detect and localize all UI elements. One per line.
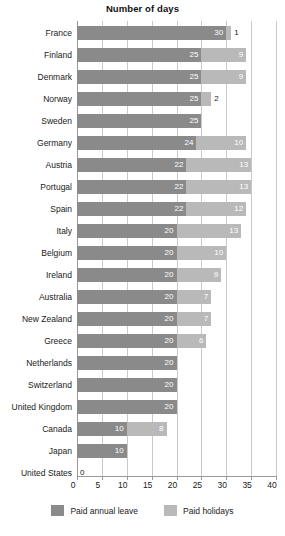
bar-segment-annual-leave[interactable]: 20	[77, 268, 177, 282]
bar-value-annual-leave: 25	[189, 51, 198, 59]
bar-row[interactable]: Japan10	[77, 444, 276, 458]
bar-segment-annual-leave[interactable]: 25	[77, 48, 201, 62]
bar-value-annual-leave: 22	[175, 161, 184, 169]
bar-segment-annual-leave[interactable]: 20	[77, 312, 177, 326]
bar-segment-paid-holidays[interactable]: 7	[177, 312, 212, 326]
bar-segment-annual-leave[interactable]: 20	[77, 224, 177, 238]
stacked-bar-chart: Number of days France301Finland259Denmar…	[0, 0, 285, 536]
bar-segment-paid-holidays[interactable]: 8	[127, 422, 167, 436]
bar-value-annual-leave: 20	[165, 227, 174, 235]
bar-row[interactable]: New Zealand207	[77, 312, 276, 326]
bar-value-paid-holidays: 10	[234, 139, 243, 147]
x-tick-label: 40	[267, 480, 276, 490]
bar-segment-paid-holidays[interactable]: 9	[201, 70, 246, 84]
category-label: Sweden	[41, 116, 72, 126]
bar-segment-paid-holidays[interactable]: 6	[177, 334, 207, 348]
bar-segment-paid-holidays[interactable]: 2	[201, 92, 211, 106]
legend-item[interactable]: Paid annual leave	[51, 505, 138, 516]
bar-row[interactable]: Germany2410	[77, 136, 276, 150]
bar-segment-annual-leave[interactable]: 20	[77, 246, 177, 260]
category-label: Ireland	[46, 270, 72, 280]
bar-segment-annual-leave[interactable]: 25	[77, 114, 201, 128]
gridline-40	[276, 21, 277, 476]
bar-segment-annual-leave[interactable]: 10	[77, 422, 127, 436]
category-label: Belgium	[41, 248, 72, 258]
bar-row[interactable]: Switzerland20	[77, 378, 276, 392]
x-tick-label: 35	[242, 480, 251, 490]
bar-row[interactable]: Finland259	[77, 48, 276, 62]
bar-segment-paid-holidays[interactable]: 13	[177, 224, 242, 238]
bar-value-paid-holidays: 6	[199, 337, 203, 345]
bar-value-paid-holidays: 12	[234, 205, 243, 213]
bar-value-annual-leave: 25	[189, 73, 198, 81]
bar-row[interactable]: France301	[77, 26, 276, 40]
legend-label: Paid holidays	[183, 506, 234, 516]
x-tick-label: 5	[96, 480, 101, 490]
bar-row[interactable]: Netherlands20	[77, 356, 276, 370]
bar-value-annual-leave: 10	[115, 425, 124, 433]
bar-row[interactable]: Canada108	[77, 422, 276, 436]
bar-row[interactable]: Sweden25	[77, 114, 276, 128]
bar-segment-paid-holidays[interactable]: 10	[196, 136, 246, 150]
bar-segment-annual-leave[interactable]: 10	[77, 444, 127, 458]
bar-value-annual-leave: 25	[189, 117, 198, 125]
bar-value-annual-leave: 20	[165, 337, 174, 345]
bar-row[interactable]: United Kingdom20	[77, 400, 276, 414]
bar-row[interactable]: Ireland209	[77, 268, 276, 282]
bar-row[interactable]: Spain2212	[77, 202, 276, 216]
legend-swatch-icon	[164, 505, 177, 516]
bar-value-annual-leave: 20	[165, 315, 174, 323]
x-tick-label: 25	[193, 480, 202, 490]
bar-value-annual-leave: 25	[189, 95, 198, 103]
category-label: Norway	[43, 94, 72, 104]
bar-segment-paid-holidays[interactable]: 10	[177, 246, 227, 260]
bar-segment-annual-leave[interactable]: 30	[77, 26, 226, 40]
bar-value-paid-holidays: 9	[214, 271, 218, 279]
bar-value-paid-holidays: 9	[239, 73, 243, 81]
bar-segment-annual-leave[interactable]: 25	[77, 70, 201, 84]
x-tick-0	[77, 476, 78, 480]
bar-value-annual-leave: 22	[175, 183, 184, 191]
category-label: Australia	[39, 292, 72, 302]
x-tick-label: 20	[168, 480, 177, 490]
category-label: New Zealand	[22, 314, 72, 324]
bar-segment-annual-leave[interactable]: 25	[77, 92, 201, 106]
bar-segment-annual-leave[interactable]: 20	[77, 400, 177, 414]
bar-segment-annual-leave[interactable]: 20	[77, 356, 177, 370]
bar-segment-annual-leave[interactable]: 22	[77, 158, 186, 172]
bar-row[interactable]: Portugal2213	[77, 180, 276, 194]
plot-area: France301Finland259Denmark259Norway252Sw…	[77, 21, 276, 476]
bar-segment-annual-leave[interactable]: 22	[77, 180, 186, 194]
category-label: Austria	[46, 160, 72, 170]
bar-row[interactable]: Austria2213	[77, 158, 276, 172]
bar-segment-paid-holidays[interactable]: 9	[177, 268, 222, 282]
bar-segment-paid-holidays[interactable]: 13	[186, 158, 251, 172]
category-label: Portugal	[40, 182, 72, 192]
bar-value-paid-holidays: 8	[159, 425, 163, 433]
bar-row[interactable]: Norway252	[77, 92, 276, 106]
bar-segment-paid-holidays[interactable]: 9	[201, 48, 246, 62]
bar-segment-annual-leave[interactable]: 22	[77, 202, 186, 216]
bar-segment-annual-leave[interactable]: 20	[77, 378, 177, 392]
bar-segment-paid-holidays[interactable]: 13	[186, 180, 251, 194]
bar-segment-paid-holidays[interactable]: 12	[186, 202, 246, 216]
bar-segment-annual-leave[interactable]: 20	[77, 290, 177, 304]
category-label: Germany	[37, 138, 72, 148]
bar-value-annual-leave: 10	[115, 447, 124, 455]
category-label: Japan	[49, 446, 72, 456]
bar-value-annual-leave: 30	[214, 29, 223, 37]
category-label: Switzerland	[28, 380, 72, 390]
bar-row[interactable]: Greece206	[77, 334, 276, 348]
bar-row[interactable]: Italy2013	[77, 224, 276, 238]
bar-value-paid-holidays: 1	[234, 29, 238, 37]
legend-item[interactable]: Paid holidays	[164, 505, 234, 516]
bar-row[interactable]: Australia207	[77, 290, 276, 304]
bar-value-annual-leave: 20	[165, 403, 174, 411]
bar-row[interactable]: Denmark259	[77, 70, 276, 84]
bar-row[interactable]: Belgium2010	[77, 246, 276, 260]
bar-segment-annual-leave[interactable]: 24	[77, 136, 196, 150]
bar-segment-paid-holidays[interactable]: 1	[226, 26, 231, 40]
bar-segment-paid-holidays[interactable]: 7	[177, 290, 212, 304]
bar-segment-annual-leave[interactable]: 20	[77, 334, 177, 348]
category-label: Denmark	[38, 72, 72, 82]
